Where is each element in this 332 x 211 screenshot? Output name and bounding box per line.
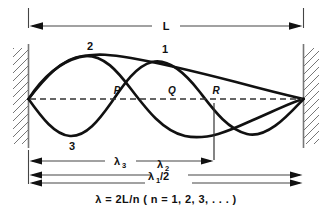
lambda1half-arrow-left (30, 180, 43, 187)
right-wall-hatching (302, 36, 326, 172)
standing-wave-figure: L P Q R 1 2 3 λ 3 (0, 0, 332, 211)
right-wall (302, 36, 326, 172)
length-arrow-left (30, 22, 44, 30)
curve-label-2: 2 (87, 40, 93, 52)
lambda1half-arrow-right (290, 180, 303, 187)
length-arrow-right (289, 22, 303, 30)
lambda1half-suffix: /2 (160, 170, 169, 182)
dimension-lambda-1-half: λ 1 /2 (30, 170, 303, 186)
length-dimension-L: L (29, 8, 304, 32)
curve-label-3: 3 (69, 140, 75, 152)
node-label-r: R (212, 85, 220, 96)
lambda2-arrow-right (290, 172, 303, 179)
node-label-p: P (114, 85, 121, 96)
wave-curve-1 (29, 55, 304, 99)
curve-label-1: 1 (162, 43, 168, 55)
left-wall (6, 32, 30, 176)
wave-curve-2 (29, 56, 304, 137)
dimension-lambda-3: λ 3 (29, 150, 214, 170)
lambda3-subscript: 3 (122, 161, 126, 170)
lambda3-arrow-left (30, 158, 43, 165)
wavelength-formula: λ = 2L/n ( n = 1, 2, 3, . . . ) (95, 193, 236, 205)
lambda2-arrow-left (30, 172, 43, 179)
lambda3-arrow-right (201, 158, 214, 165)
figure-canvas: L P Q R 1 2 3 λ 3 (0, 0, 332, 211)
lambda3-symbol: λ (114, 155, 120, 167)
lambda2-symbol: λ (157, 158, 163, 170)
lambda1half-symbol: λ (148, 170, 154, 182)
node-label-q: Q (168, 85, 176, 96)
left-wall-hatching (6, 32, 30, 176)
length-label: L (163, 20, 170, 32)
